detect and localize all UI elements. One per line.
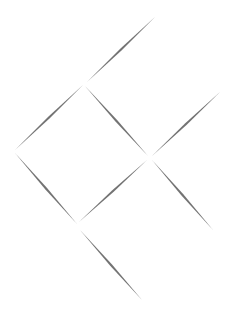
segment-right-down [152, 160, 213, 230]
segment-right-upper [152, 92, 220, 156]
line-drawing [0, 0, 230, 316]
line-drawing-canvas [0, 0, 230, 316]
segment-left-down [15, 153, 77, 224]
segment-top-left [15, 85, 83, 150]
segment-bottom-down [80, 230, 142, 300]
segments-group [15, 17, 220, 300]
segment-center-up [79, 160, 147, 222]
segment-top-right-upper [87, 17, 155, 82]
segment-center-down [85, 86, 148, 156]
